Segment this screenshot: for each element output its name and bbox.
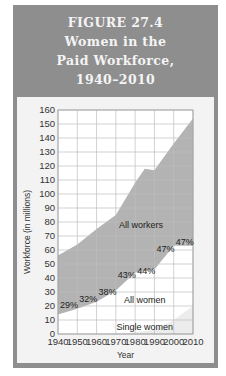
percentage-annotation: 47% xyxy=(176,237,194,247)
percentage-annotation: 38% xyxy=(99,287,117,297)
y-tick-label: 70 xyxy=(44,230,55,241)
area-label: All women xyxy=(124,295,166,305)
percentage-annotation: 43% xyxy=(118,270,136,280)
figure-frame: FIGURE 27.4 Women in the Paid Workforce,… xyxy=(13,5,218,368)
percentage-annotation: 44% xyxy=(137,266,155,276)
y-tick-label: 160 xyxy=(39,104,55,115)
y-tick-label: 140 xyxy=(39,132,55,143)
x-tick-label: 2010 xyxy=(182,336,203,347)
area-chart: 0102030405060708090100110120130140150160… xyxy=(17,97,214,363)
x-tick-label: 1960 xyxy=(86,336,107,347)
y-tick-label: 40 xyxy=(44,272,55,283)
percentage-annotation: 29% xyxy=(60,300,78,310)
y-tick-label: 150 xyxy=(39,118,55,129)
x-tick-label: 1940 xyxy=(47,336,68,347)
title-line-1: Women in the xyxy=(13,32,218,51)
y-tick-label: 130 xyxy=(39,146,55,157)
x-tick-label: 1950 xyxy=(67,336,88,347)
y-tick-label: 120 xyxy=(39,160,55,171)
y-axis-title: Workforce (in millions) xyxy=(22,190,32,274)
chart-panel: 0102030405060708090100110120130140150160… xyxy=(17,97,214,363)
percentage-annotation: 47% xyxy=(156,244,174,254)
x-tick-label: 1990 xyxy=(144,336,165,347)
figure-title: FIGURE 27.4 Women in the Paid Workforce,… xyxy=(13,13,218,89)
area-label: Single women xyxy=(117,322,174,332)
y-tick-label: 10 xyxy=(44,314,55,325)
y-tick-label: 20 xyxy=(44,300,55,311)
y-tick-label: 80 xyxy=(44,216,55,227)
y-tick-label: 30 xyxy=(44,286,55,297)
x-tick-label: 1970 xyxy=(105,336,126,347)
figure-label: FIGURE 27.4 xyxy=(13,13,218,32)
y-tick-label: 100 xyxy=(39,188,55,199)
title-line-3: 1940–2010 xyxy=(13,70,218,89)
title-line-2: Paid Workforce, xyxy=(13,51,218,70)
y-tick-label: 60 xyxy=(44,244,55,255)
percentage-annotation: 32% xyxy=(79,294,97,304)
y-tick-label: 90 xyxy=(44,202,55,213)
x-tick-label: 1980 xyxy=(125,336,146,347)
x-tick-label: 2000 xyxy=(163,336,184,347)
x-axis-title: Year xyxy=(117,350,134,360)
y-tick-label: 50 xyxy=(44,258,55,269)
y-tick-label: 110 xyxy=(40,174,55,185)
area-label: All workers xyxy=(119,220,164,230)
